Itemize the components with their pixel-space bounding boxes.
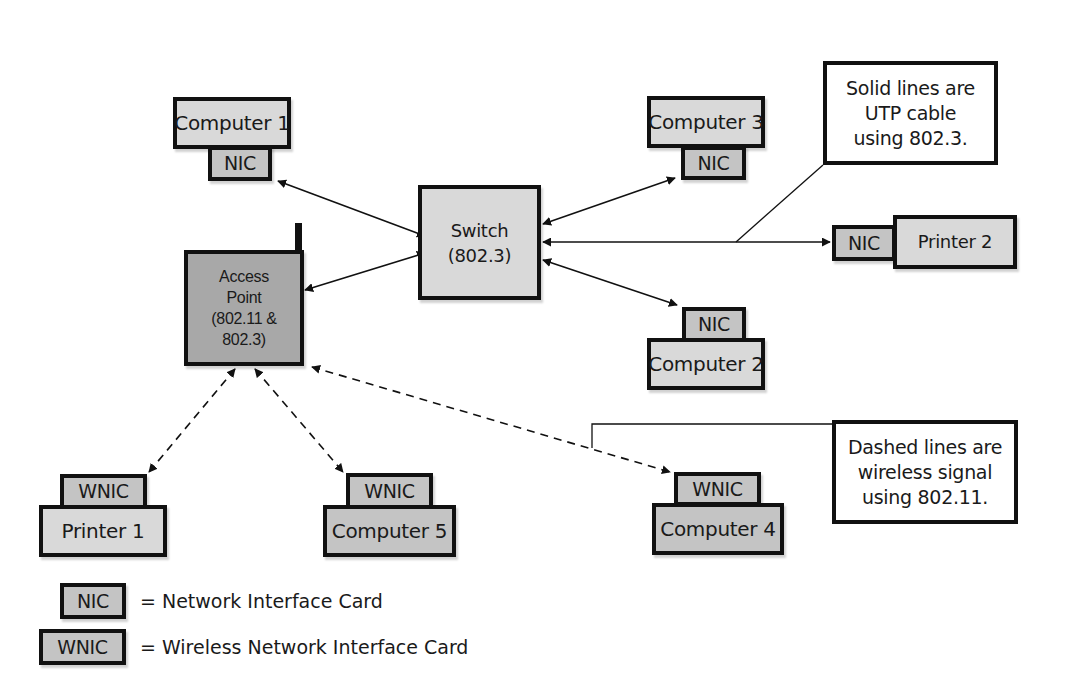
nic-label: NIC xyxy=(848,234,880,253)
solid-lines-note: Solid lines areUTP cableusing 802.3. xyxy=(846,76,975,151)
computer-4-label: Computer 4 xyxy=(660,519,776,539)
computer-1-nic: NIC xyxy=(208,146,272,181)
switch-node: Switch(802.3) xyxy=(418,185,541,300)
wnic-label: WNIC xyxy=(364,482,415,501)
link-switch-accesspoint xyxy=(305,253,425,290)
legend-wnic-swatch: WNIC xyxy=(39,629,126,665)
computer-5-node: Computer 5 xyxy=(323,505,456,557)
computer-5-wnic: WNIC xyxy=(346,473,433,509)
computer-3-node: Computer 3 xyxy=(647,96,765,148)
link-switch-computer3 xyxy=(543,178,675,224)
printer-2-label: Printer 2 xyxy=(918,233,992,251)
printer-1-label: Printer 1 xyxy=(62,521,145,541)
wnic-label: WNIC xyxy=(692,480,743,499)
dashed-lines-note: Dashed lines arewireless signalusing 802… xyxy=(848,435,1002,510)
link-ap-computer4 xyxy=(312,367,670,472)
access-point-label: AccessPoint(802.11 &802.3) xyxy=(211,266,277,350)
printer-1-wnic: WNIC xyxy=(60,474,147,509)
computer-4-wnic: WNIC xyxy=(674,472,761,506)
legend-wnic: WNIC = Wireless Network Interface Card xyxy=(39,629,468,665)
link-ap-printer1 xyxy=(149,369,235,472)
callout-leader-dashed xyxy=(592,424,833,448)
nic-label: NIC xyxy=(698,315,730,334)
computer-1-label: Computer 1 xyxy=(174,113,290,133)
computer-2-nic: NIC xyxy=(682,307,746,342)
legend-nic-text: = Network Interface Card xyxy=(140,590,383,612)
link-switch-computer2 xyxy=(543,260,677,305)
printer-2-nic: NIC xyxy=(832,225,896,261)
computer-5-label: Computer 5 xyxy=(332,521,448,541)
link-ap-computer5 xyxy=(255,369,343,472)
access-point-node: AccessPoint(802.11 &802.3) xyxy=(184,250,304,366)
printer-1-node: Printer 1 xyxy=(39,505,167,557)
legend-wnic-text: = Wireless Network Interface Card xyxy=(140,636,468,658)
nic-label: NIC xyxy=(224,154,256,173)
computer-4-node: Computer 4 xyxy=(652,503,784,555)
switch-label: Switch(802.3) xyxy=(448,218,511,268)
wnic-label: WNIC xyxy=(78,482,129,501)
computer-3-nic: NIC xyxy=(681,146,746,180)
computer-1-node: Computer 1 xyxy=(173,97,291,149)
computer-2-node: Computer 2 xyxy=(647,338,765,390)
callout-leader-solid xyxy=(736,165,823,242)
computer-3-label: Computer 3 xyxy=(648,112,764,132)
printer-2-node: Printer 2 xyxy=(893,215,1017,269)
dashed-lines-callout: Dashed lines arewireless signalusing 802… xyxy=(832,420,1018,524)
legend-nic-swatch: NIC xyxy=(60,583,126,619)
nic-label: NIC xyxy=(697,154,729,173)
legend-nic: NIC = Network Interface Card xyxy=(60,583,383,619)
solid-lines-callout: Solid lines areUTP cableusing 802.3. xyxy=(823,61,998,165)
computer-2-label: Computer 2 xyxy=(648,354,764,374)
